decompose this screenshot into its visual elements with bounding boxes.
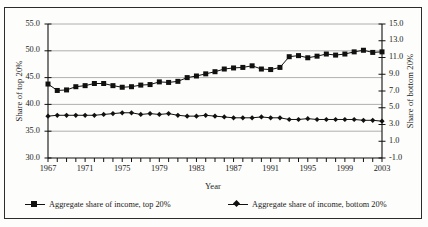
data-point-marker [324,52,329,57]
data-point-marker [213,69,218,74]
y-axis-left-tick-label: 45.0 [6,72,40,81]
legend-item-bottom-20: Aggregate share of income, bottom 20% [228,200,387,209]
data-point-marker [380,49,385,54]
x-axis-tick-label: 1983 [176,164,216,173]
data-point-marker [73,84,78,89]
y-axis-left-tick-label: 55.0 [6,19,40,28]
data-point-marker [157,112,162,117]
data-point-marker [324,117,329,122]
y-axis-left-tick-label: 40.0 [6,99,40,108]
data-point-marker [352,117,357,122]
x-axis-tick-label: 1991 [251,164,291,173]
data-point-marker [185,114,190,119]
legend-diamond-marker-icon [228,200,248,209]
data-point-marker [175,79,180,84]
data-point-marker [92,81,97,86]
data-point-marker [101,81,106,86]
data-point-marker [148,82,153,87]
x-axis-tick-label: 1971 [65,164,105,173]
x-axis-title: Year [178,181,248,191]
data-point-marker [352,49,357,54]
legend-item-top-20: Aggregate share of income, top 20% [25,200,171,209]
data-point-marker [194,73,199,78]
data-point-marker [138,83,143,88]
data-point-marker [203,71,208,76]
x-axis-tick-label: 1987 [214,164,254,173]
data-point-marker [45,114,50,119]
data-point-marker [166,111,171,116]
plot-area [0,0,428,227]
data-point-marker [240,65,245,70]
y-axis-right-tick-label: 1.0 [389,136,423,145]
data-point-marker [361,118,366,123]
data-point-marker [203,113,208,118]
data-point-marker [361,48,366,53]
data-point-marker [296,53,301,58]
data-point-marker [231,65,236,70]
data-point-marker [147,111,152,116]
data-point-marker [305,116,310,121]
data-point-marker [314,117,319,122]
data-point-marker [370,118,375,123]
data-point-marker [342,117,347,122]
data-point-marker [315,54,320,59]
data-point-marker [120,110,125,115]
data-point-marker [287,54,292,59]
data-point-marker [55,113,60,118]
data-point-marker [129,84,134,89]
legend-label-bottom-20: Aggregate share of income, bottom 20% [252,200,387,209]
data-point-marker [175,113,180,118]
y-axis-right-tick-label: 11.0 [389,52,423,61]
data-point-marker [277,115,282,120]
y-axis-left-tick-label: 50.0 [6,45,40,54]
data-point-marker [333,117,338,122]
data-point-marker [370,50,375,55]
data-point-marker [64,113,69,118]
data-point-marker [250,115,255,120]
y-axis-right-tick-label: 9.0 [389,69,423,78]
data-point-marker [296,117,301,122]
chart-figure: Share of top 20% Share of bottom 20% Yea… [0,0,428,227]
x-axis-tick-label: 1975 [102,164,142,173]
y-axis-left-tick-label: 35.0 [6,126,40,135]
data-point-marker [64,87,69,92]
x-axis-tick-label: 1995 [288,164,328,173]
data-point-marker [110,111,115,116]
data-point-marker [120,85,125,90]
data-point-marker [110,83,115,88]
y-axis-right-tick-label: 13.0 [389,35,423,44]
data-point-marker [138,112,143,117]
x-axis-tick-label: 2003 [362,164,402,173]
data-point-marker [194,114,199,119]
y-axis-left-tick-label: 30.0 [6,153,40,162]
data-point-marker [46,82,51,87]
data-point-marker [185,75,190,80]
data-point-marker [212,114,217,119]
y-axis-right-tick-label: 5.0 [389,102,423,111]
data-point-marker [129,110,134,115]
data-point-marker [222,114,227,119]
data-point-marker [379,119,384,124]
legend-square-marker-icon [25,200,45,209]
data-point-marker [83,113,88,118]
data-point-marker [333,53,338,58]
data-point-marker [83,83,88,88]
data-point-marker [259,114,264,119]
data-point-marker [222,67,227,72]
data-point-marker [277,65,282,70]
data-point-marker [101,112,106,117]
data-point-marker [73,113,78,118]
x-axis-tick-label: 1999 [325,164,365,173]
data-point-marker [92,113,97,118]
y-axis-right-tick-label: 7.0 [389,86,423,95]
x-axis-tick-label: 1967 [28,164,68,173]
y-axis-right-tick-label: 3.0 [389,119,423,128]
data-point-marker [55,88,60,93]
data-point-marker [259,67,264,72]
x-axis-tick-label: 1979 [139,164,179,173]
y-axis-right-tick-label: -1.0 [389,153,423,162]
data-point-marker [166,80,171,85]
data-point-marker [231,115,236,120]
data-point-marker [305,55,310,60]
data-point-marker [268,115,273,120]
